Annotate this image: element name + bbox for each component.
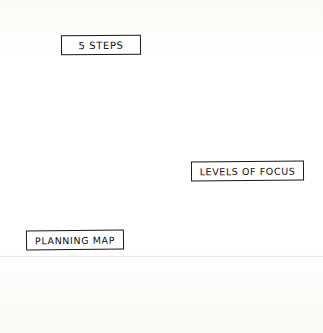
label-planning-map[interactable]: PLANNING MAP xyxy=(26,229,124,250)
label-planning-map-text: PLANNING MAP xyxy=(35,234,115,246)
label-5-steps-text: 5 STEPS xyxy=(78,39,123,50)
label-levels-of-focus[interactable]: LEVELS OF FOCUS xyxy=(191,161,304,182)
label-5-steps[interactable]: 5 STEPS xyxy=(61,35,141,56)
divider-bottom xyxy=(160,166,161,303)
diagram-canvas: 5 STEPS LEVELS OF FOCUS PLANNING MAP xyxy=(0,0,323,333)
donut-chart-icon xyxy=(130,60,204,134)
pyramid-levels-icon xyxy=(172,197,256,258)
diamond-levels-icon xyxy=(63,136,111,226)
label-levels-of-focus-text: LEVELS OF FOCUS xyxy=(200,165,296,177)
